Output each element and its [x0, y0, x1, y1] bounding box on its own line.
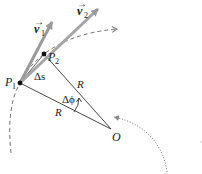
svg-text:2: 2 — [55, 57, 59, 66]
point-p1 — [18, 81, 23, 86]
label-delta-s: Δs — [34, 70, 45, 82]
point-p2 — [42, 52, 47, 57]
label-radius-upper: R — [76, 78, 84, 90]
label-delta-phi: Δϕ — [62, 93, 75, 105]
label-origin-o: O — [112, 130, 121, 144]
svg-text:2: 2 — [84, 11, 88, 20]
svg-text:1: 1 — [41, 29, 45, 38]
svg-text:v: v — [77, 4, 83, 18]
label-v2: → v 2 — [77, 0, 88, 20]
label-p2: P 2 — [47, 50, 59, 66]
svg-text:1: 1 — [12, 82, 16, 91]
rotation-direction-dotted-arc — [114, 117, 167, 172]
label-v1: → v 1 — [34, 16, 45, 38]
radius-line-p1 — [20, 83, 111, 129]
svg-text:v: v — [34, 22, 40, 36]
circular-motion-diagram: → v 1 → v 2 P 1 P 2 Δs R R Δϕ O — [0, 0, 202, 174]
trajectory-dashed-arc — [10, 29, 117, 153]
stray-dot — [200, 141, 201, 142]
label-p1: P 1 — [4, 75, 16, 91]
velocity-vector-v2 — [20, 9, 98, 83]
label-radius-lower: R — [54, 106, 62, 118]
